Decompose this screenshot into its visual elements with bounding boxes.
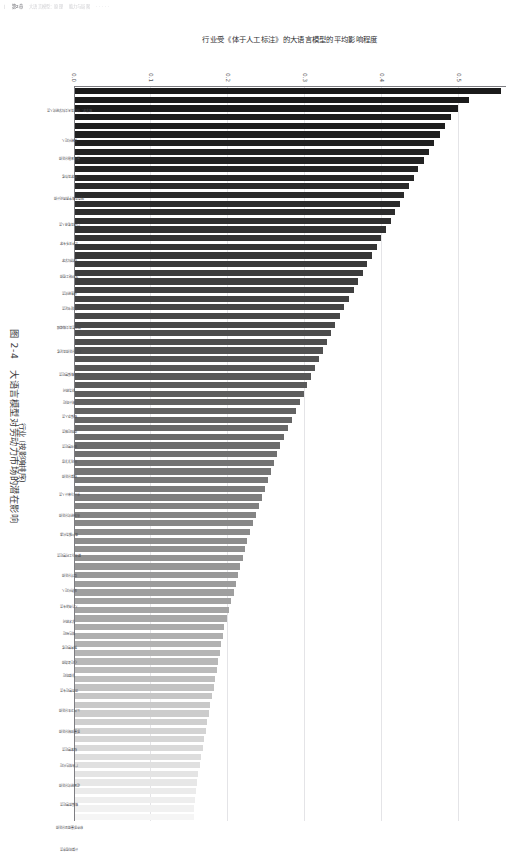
bar[interactable] [75,339,327,345]
bar-cell[interactable] [75,389,506,398]
bar-cell[interactable] [75,268,506,277]
bar[interactable] [75,97,469,103]
bar-cell[interactable] [75,804,506,813]
bar[interactable] [75,408,296,414]
bar-cell[interactable] [75,355,506,364]
bar-cell[interactable] [75,277,506,286]
bar[interactable] [75,494,262,500]
bar[interactable] [75,88,501,94]
bar[interactable] [75,201,400,207]
bar[interactable] [75,244,377,250]
bar[interactable] [75,555,243,561]
bar[interactable] [75,382,307,388]
bar-cell[interactable] [75,217,506,226]
bar[interactable] [75,676,215,682]
bar[interactable] [75,261,367,267]
bar[interactable] [75,365,315,371]
bar[interactable] [75,287,354,293]
bar[interactable] [75,175,414,181]
bar-cell[interactable] [75,303,506,312]
bar-cell[interactable] [75,243,506,252]
bar-cell[interactable] [75,191,506,200]
bar[interactable] [75,218,391,224]
bar[interactable] [75,589,234,595]
bar-cell[interactable] [75,147,506,156]
bar[interactable] [75,304,344,310]
bar[interactable] [75,754,201,760]
bar-cell[interactable] [75,294,506,303]
bar[interactable] [75,460,274,466]
bar-cell[interactable] [75,718,506,727]
bar-cell[interactable] [75,666,506,675]
bar-cell[interactable] [75,433,506,442]
bar-cell[interactable] [75,372,506,381]
bar[interactable] [75,391,304,397]
bar-cell[interactable] [75,122,506,131]
bar-cell[interactable] [75,139,506,148]
bar[interactable] [75,183,409,189]
bar-cell[interactable] [75,338,506,347]
bar-cell[interactable] [75,415,506,424]
bar-cell[interactable] [75,199,506,208]
bar[interactable] [75,330,331,336]
bar-cell[interactable] [75,528,506,537]
bar[interactable] [75,209,395,215]
bar-cell[interactable] [75,156,506,165]
bar[interactable] [75,313,340,319]
bar[interactable] [75,719,207,725]
bar[interactable] [75,538,247,544]
bar-cell[interactable] [75,502,506,511]
bar-cell[interactable] [75,182,506,191]
bar-cell[interactable] [75,225,506,234]
bar[interactable] [75,270,363,276]
bar-cell[interactable] [75,398,506,407]
bar-cell[interactable] [75,364,506,373]
bar-cell[interactable] [75,588,506,597]
bar-cell[interactable] [75,312,506,321]
bar-cell[interactable] [75,770,506,779]
bar[interactable] [75,788,196,794]
bar-cell[interactable] [75,165,506,174]
bar[interactable] [75,667,217,673]
bar[interactable] [75,157,424,163]
bar-cell[interactable] [75,649,506,658]
bar[interactable] [75,296,349,302]
bar-cell[interactable] [75,726,506,735]
bar-cell[interactable] [75,130,506,139]
bar[interactable] [75,546,245,552]
bar-cell[interactable] [75,580,506,589]
bar-cell[interactable] [75,605,506,614]
bar[interactable] [75,252,372,258]
bar[interactable] [75,633,223,639]
bar[interactable] [75,728,206,734]
bar-cell[interactable] [75,700,506,709]
bar[interactable] [75,166,418,172]
bar[interactable] [75,650,220,656]
bar[interactable] [75,814,194,820]
bar[interactable] [75,140,434,146]
bar-cell[interactable] [75,96,506,105]
bar-cell[interactable] [75,813,506,822]
bar[interactable] [75,486,265,492]
bar-cell[interactable] [75,459,506,468]
bar-cell[interactable] [75,571,506,580]
bar-cell[interactable] [75,623,506,632]
bar[interactable] [75,529,250,535]
bar[interactable] [75,131,440,137]
bar[interactable] [75,114,451,120]
bar[interactable] [75,641,221,647]
bar-cell[interactable] [75,709,506,718]
bar[interactable] [75,598,231,604]
bar[interactable] [75,693,212,699]
bar[interactable] [75,149,429,155]
bar[interactable] [75,192,404,198]
bar-cell[interactable] [75,173,506,182]
bar-cell[interactable] [75,104,506,113]
bar[interactable] [75,702,210,708]
bar[interactable] [75,442,280,448]
bar-cell[interactable] [75,796,506,805]
bar-cell[interactable] [75,320,506,329]
bar-cell[interactable] [75,692,506,701]
bar-cell[interactable] [75,407,506,416]
bar[interactable] [75,779,197,785]
